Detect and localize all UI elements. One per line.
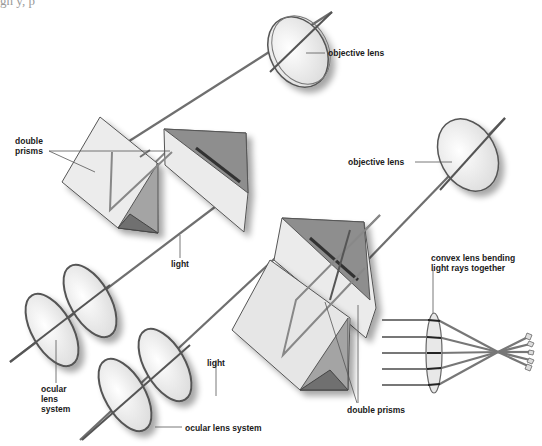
label-light-bottom: light <box>207 358 225 368</box>
label-objective-lens-right: objective lens <box>348 157 404 167</box>
left-prism-2 <box>164 129 248 232</box>
label-objective-lens-top: objective lens <box>328 48 384 58</box>
label-convex-lens-caption: convex lens bending light rays together <box>431 253 515 273</box>
label-double-prisms-left: double prisms <box>15 136 43 156</box>
label-ocular-lens-system-bottom: ocular lens system <box>185 423 262 433</box>
label-ocular-lens-system-left: ocular lens system <box>41 384 70 414</box>
label-light-top: light <box>171 259 189 269</box>
left-prism-1 <box>62 117 158 233</box>
label-double-prisms-bottom: double prisms <box>347 405 405 415</box>
convex-lens-diagram <box>382 313 534 393</box>
binocular-optics-illustration <box>0 0 542 446</box>
